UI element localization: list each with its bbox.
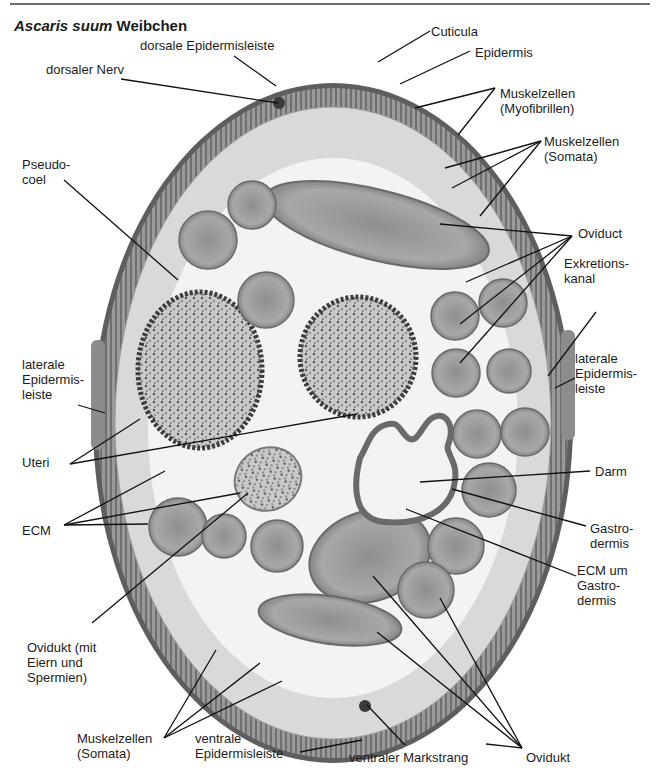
oviduct-section-7 [487,349,531,393]
oviduct-section-6 [432,349,480,397]
label-line: (Somata) [544,149,619,164]
label-line: Exkretions- [564,256,629,271]
label-line: Cuticula [431,24,478,39]
oviduct-section-9 [501,408,549,456]
label-line: laterale [575,351,637,366]
oviduct-section-2 [228,181,276,229]
label-line: Muskelzellen [500,86,575,101]
label-line: Muskelzellen [544,134,619,149]
leader-line-muskelzellen-myofibrillen [458,88,495,135]
gut-darm [356,416,455,523]
label-dorsale-epidermisleiste: dorsale Epidermisleiste [140,38,274,53]
oviduct-section-12 [149,498,207,556]
leader-line-ovidukt [486,744,522,748]
oviduct-section-3 [238,272,294,328]
label-line: Ovidukt [526,750,570,765]
label-line: ECM [22,523,51,538]
label-ventraler-markstrang: ventraler Markstrang [349,750,468,765]
uterus-2 [300,297,416,417]
oviduct-section-14 [251,520,303,572]
label-muskelzellen-somata-bottom: Muskelzellen(Somata) [77,731,152,761]
label-line: Spermien) [27,670,96,685]
label-laterale-epidermisleiste-left: lateraleEpidermis-leiste [22,357,84,402]
label-line: Epidermis- [22,372,84,387]
label-muskelzellen-myofibrillen: Muskelzellen(Myofibrillen) [500,86,575,116]
oviduct-section-4 [431,292,479,340]
label-line: dermis [590,536,633,551]
label-line: Ovidukt (mit [27,640,96,655]
label-laterale-epidermisleiste-right: lateraleEpidermis-leiste [575,351,637,396]
leader-line-muskelzellen-myofibrillen [415,88,495,108]
label-line: dorsale Epidermisleiste [140,38,274,53]
label-line: (Myofibrillen) [500,101,575,116]
label-ecm: ECM [22,523,51,538]
label-darm: Darm [595,464,627,479]
label-line: dermis [577,593,628,608]
leader-line-dorsale-epidermisleiste [234,56,276,86]
label-ovidukt: Ovidukt [526,750,570,765]
oviduct-section-13 [202,514,246,558]
label-line: Eiern und [27,655,96,670]
label-line: kanal [564,271,629,286]
label-pseudocoel: Pseudo-coel [22,157,70,187]
label-line: ECM um [577,563,628,578]
label-uteri: Uteri [22,455,49,470]
lateral-epidermal-cord-right [561,330,575,440]
label-line: leiste [575,381,637,396]
label-line: Oviduct [578,226,622,241]
label-line: dorsaler Nerv [46,62,124,77]
label-line: (Somata) [77,746,152,761]
leader-line-epidermis [400,51,470,84]
label-line: Uteri [22,455,49,470]
label-oviduct: Oviduct [578,226,622,241]
label-line: ventraler Markstrang [349,750,468,765]
label-line: laterale [22,357,84,372]
label-line: Muskelzellen [77,731,152,746]
label-line: coel [22,172,70,187]
label-line: Pseudo- [22,157,70,172]
label-ecm-um-gastrodermis: ECM umGastro-dermis [577,563,628,608]
label-cuticula: Cuticula [431,24,478,39]
lateral-epidermal-cord-left [91,340,105,450]
oviduct-section-8 [453,410,501,458]
label-line: Gastro- [577,578,628,593]
label-epidermis: Epidermis [475,45,533,60]
label-line: Epidermisleiste [195,746,283,761]
label-line: ventrale [195,731,283,746]
label-ventrale-epidermisleiste: ventraleEpidermisleiste [195,731,283,761]
label-line: Epidermis [475,45,533,60]
leader-line-cuticula [378,31,430,62]
cross-section-micrograph [0,0,656,782]
label-line: Epidermis- [575,366,637,381]
label-exkretionskanal: Exkretions-kanal [564,256,629,286]
label-dorsaler-nerv: dorsaler Nerv [46,62,124,77]
label-gastrodermis: Gastro-dermis [590,521,633,551]
ventral-nerve-cord [359,700,371,712]
oviduct-section-1 [179,211,237,269]
label-line: Darm [595,464,627,479]
oviduct-section-10 [462,463,516,517]
label-muskelzellen-somata-top: Muskelzellen(Somata) [544,134,619,164]
label-line: Gastro- [590,521,633,536]
label-ovidukt-mit-eiern: Ovidukt (mitEiern undSpermien) [27,640,96,685]
label-line: leiste [22,387,84,402]
oviduct-section-15 [398,562,454,618]
leader-line-dorsaler-nerv [121,79,278,103]
